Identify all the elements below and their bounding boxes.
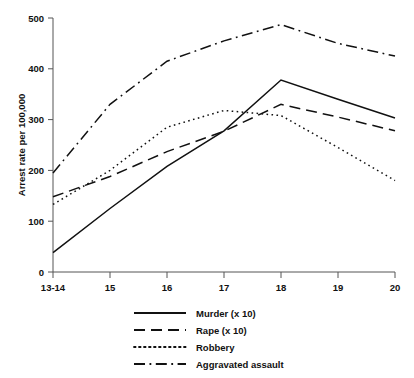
- x-tick-label: 18: [276, 282, 287, 293]
- chart-legend: Murder (x 10)Rape (x 10)RobberyAggravate…: [134, 308, 284, 370]
- y-axis: 0100200300400500: [28, 13, 53, 278]
- y-tick-label: 500: [28, 13, 44, 24]
- series-line-2: [53, 110, 395, 204]
- line-chart: Arrest rate per 100,000 0100200300400500…: [0, 0, 414, 378]
- y-tick-group: 0100200300400500: [28, 13, 53, 278]
- y-tick-label: 200: [28, 165, 44, 176]
- legend-label-2: Robbery: [196, 342, 235, 353]
- x-tick-label: 13-14: [41, 282, 66, 293]
- series-line-0: [53, 80, 395, 253]
- legend-label-3: Aggravated assault: [196, 359, 284, 370]
- x-tick-label: 20: [390, 282, 401, 293]
- x-tick-label: 15: [105, 282, 116, 293]
- x-tick-group: 13-14151617181920: [41, 272, 400, 293]
- legend-label-1: Rape (x 10): [196, 325, 247, 336]
- x-tick-label: 17: [219, 282, 230, 293]
- y-tick-label: 0: [39, 267, 44, 278]
- y-tick-label: 300: [28, 114, 44, 125]
- legend-label-0: Murder (x 10): [196, 308, 256, 319]
- y-tick-label: 100: [28, 216, 44, 227]
- x-tick-label: 16: [162, 282, 173, 293]
- y-tick-label: 400: [28, 63, 44, 74]
- x-axis: 13-14151617181920: [41, 272, 400, 293]
- x-tick-label: 19: [333, 282, 344, 293]
- series-group: [53, 25, 395, 253]
- y-axis-title: Arrest rate per 100,000: [16, 94, 27, 196]
- y-axis-title-group: Arrest rate per 100,000: [16, 94, 27, 196]
- chart-figure: Arrest rate per 100,000 0100200300400500…: [0, 0, 414, 378]
